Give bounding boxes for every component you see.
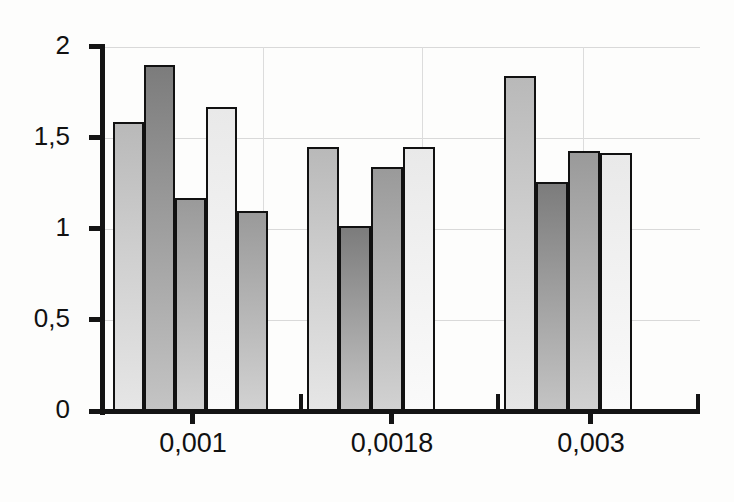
y-tick-label-1: 1 [10, 214, 70, 240]
bar-g1-b1 [113, 122, 144, 412]
x-tick-3 [588, 412, 593, 424]
y-tick-0-5 [89, 317, 105, 322]
y-tick-1 [89, 226, 105, 231]
gridline-y-2 [104, 47, 700, 48]
bar-chart: 2 1,5 1 0,5 0 0,001 0,0018 0,003 [0, 0, 734, 502]
bar-g3-b2 [536, 182, 568, 412]
y-tick-2 [89, 44, 105, 49]
x-tick-label-2: 0,0018 [351, 430, 434, 457]
bar-g3-b4 [600, 153, 632, 412]
x-tick-2 [389, 412, 394, 424]
y-tick-label-2: 2 [10, 32, 70, 58]
bar-g2-b1 [307, 147, 339, 412]
bar-g2-b4 [403, 147, 435, 412]
x-tick-1 [190, 412, 195, 424]
bar-g2-b3 [371, 167, 403, 412]
y-tick-label-1-5: 1,5 [10, 123, 70, 149]
y-tick-1-5 [89, 135, 105, 140]
bar-g1-b3 [175, 198, 206, 412]
x-tick-label-1: 0,001 [159, 430, 227, 457]
plot-area [104, 47, 700, 412]
gridline-y-1-5 [104, 138, 700, 139]
bar-g2-b2 [339, 226, 371, 412]
bar-g3-b3 [568, 151, 600, 412]
bar-g1-b2 [144, 65, 175, 412]
bar-g3-b1 [504, 76, 536, 412]
y-tick-label-0: 0 [10, 396, 70, 422]
bar-g1-b4 [206, 107, 237, 412]
y-tick-0 [89, 409, 105, 414]
bar-g1-b5 [237, 211, 268, 412]
y-tick-label-0-5: 0,5 [10, 305, 70, 331]
x-tick-label-3: 0,003 [557, 430, 625, 457]
